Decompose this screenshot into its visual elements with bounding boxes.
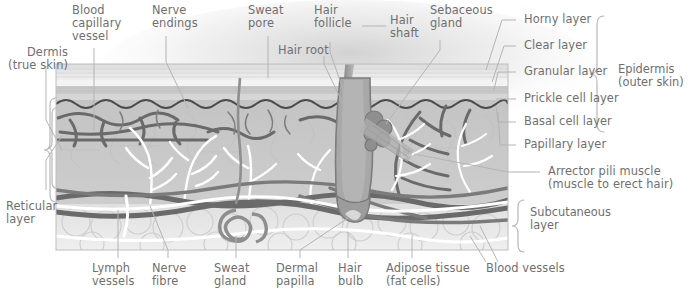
label-hair-shaft: Hair shaft [390, 14, 419, 40]
label-sweat-gland: Sweat gland [214, 262, 250, 288]
label-granular-layer: Granular layer [524, 65, 607, 78]
label-nerve-endings: Nerve endings [152, 4, 198, 30]
label-sweat-pore: Sweat pore [248, 4, 284, 30]
label-prickle-cell-layer: Prickle cell layer [524, 92, 619, 105]
hair-root [341, 80, 365, 206]
label-subcutaneous-layer: Subcutaneous layer [530, 206, 611, 232]
horny-layer-band [56, 64, 508, 80]
label-blood-capillary-vessel: Blood capillary vessel [72, 4, 121, 44]
label-sebaceous-gland: Sebaceous gland [430, 4, 493, 30]
clear-layer-band [56, 80, 508, 86]
label-lymph-vessels: Lymph vessels [92, 262, 134, 288]
reticular-layer-bracket [48, 108, 56, 188]
label-nerve-fibre: Nerve fibre [152, 262, 186, 288]
label-hair-bulb: Hair bulb [338, 262, 363, 288]
label-dermal-papilla: Dermal papilla [276, 262, 318, 288]
label-adipose-tissue: Adipose tissue (fat cells) [386, 262, 470, 288]
label-hair-follicle: Hair follicle [314, 4, 352, 30]
label-arrector-pili-muscle: Arrector pili muscle (muscle to erect ha… [548, 165, 673, 191]
label-epidermis: Epidermis (outer skin) [618, 63, 684, 89]
label-reticular-layer: Reticular layer [6, 200, 57, 226]
label-papillary-layer: Papillary layer [524, 138, 606, 151]
label-dermis: Dermis (true skin) [4, 46, 68, 72]
label-basal-cell-layer: Basal cell layer [524, 115, 612, 128]
subcutaneous-bracket [512, 200, 524, 252]
granular-layer-band [56, 86, 508, 94]
skin-cross-section-figure: Dermis (true skin) Blood capillary vesse… [0, 0, 689, 307]
label-clear-layer: Clear layer [524, 39, 587, 52]
label-blood-vessels: Blood vessels [486, 262, 565, 275]
label-hair-root: Hair root [278, 44, 329, 57]
label-horny-layer: Horny layer [524, 13, 591, 26]
